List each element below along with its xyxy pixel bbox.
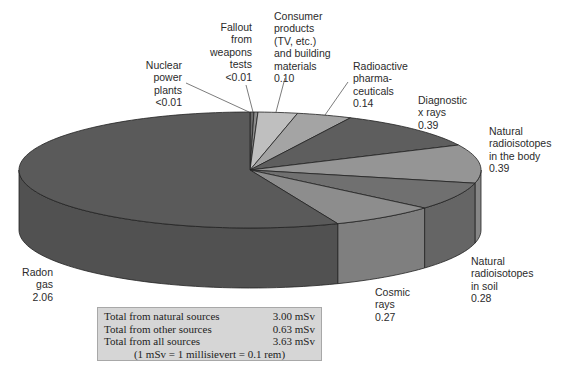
label-fallout-weapons-tests: Fallout from weapons tests <0.01 <box>190 21 252 83</box>
summary-box: Total from natural sources 3.00 mSv Tota… <box>97 307 322 361</box>
summary-row-all: Total from all sources 3.63 mSv <box>104 335 315 348</box>
summary-row-other: Total from other sources 0.63 mSv <box>104 323 315 336</box>
summary-value: 0.63 mSv <box>273 323 315 336</box>
label-natural-radioisotopes-soil: Natural radioisotopes in soil 0.28 <box>471 255 561 305</box>
summary-value: 3.63 mSv <box>273 335 315 348</box>
summary-value: 3.00 mSv <box>273 310 315 323</box>
leader-line-pharma <box>325 82 348 115</box>
label-natural-radioisotopes-body: Natural radioisotopes in the body 0.39 <box>489 125 569 175</box>
summary-label: Total from natural sources <box>104 310 220 323</box>
leader-line-nuclear <box>186 83 249 112</box>
label-cosmic-rays: Cosmic rays 0.27 <box>375 286 435 323</box>
label-consumer-products: Consumer products (TV, etc.) and buildin… <box>274 10 354 84</box>
label-nuclear-power-plants: Nuclear power plants <0.01 <box>118 59 182 109</box>
summary-label: Total from other sources <box>104 323 212 336</box>
label-diagnostic-x-rays: Diagnostic x rays 0.39 <box>418 94 488 131</box>
summary-row-natural: Total from natural sources 3.00 mSv <box>104 310 315 323</box>
label-radon-gas: Radon gas 2.06 <box>8 266 53 303</box>
summary-label: Total from all sources <box>104 335 200 348</box>
leader-line-fallout <box>246 85 253 112</box>
unit-note: (1 mSv = 1 millisievert = 0.1 rem) <box>104 348 315 361</box>
